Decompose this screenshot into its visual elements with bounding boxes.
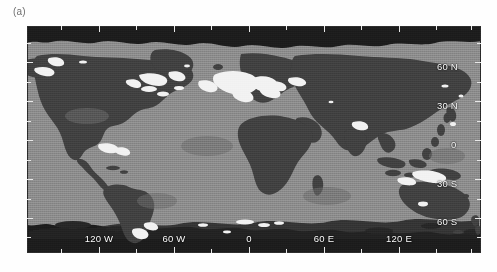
tick-right-major [475,62,481,63]
tick-top-major [399,26,400,32]
tick-left-major [27,62,33,63]
tick-bottom-major [174,247,175,253]
tick-left-major [27,101,33,102]
tick-bottom-minor [211,249,212,253]
tick-right-major [475,218,481,219]
tick-top-minor [436,26,437,30]
tick-left-minor [27,237,31,238]
tick-right-minor [477,160,481,161]
world-map: 60 N 30 N 0 30 S 60 S 120 W 60 W 0 60 E … [27,26,481,253]
tick-top-minor [211,26,212,30]
lat-label-60s: 60 S [437,217,457,227]
tick-right-minor [477,43,481,44]
tick-bottom-major [324,247,325,253]
tick-left-major [27,179,33,180]
tick-bottom-minor [361,249,362,253]
tick-right-major [475,140,481,141]
tick-right-minor [477,199,481,200]
tick-top-major [174,26,175,32]
world-map-graphic [27,26,481,253]
tick-bottom-minor [471,249,472,253]
lon-label-60e: 60 E [314,234,334,244]
lat-label-0: 0 [451,140,456,150]
tick-right-minor [477,237,481,238]
lon-label-60w: 60 W [163,234,186,244]
tick-top-major [249,26,250,32]
tick-bottom-minor [436,249,437,253]
tick-top-minor [61,26,62,30]
tick-top-minor [286,26,287,30]
lon-label-120w: 120 W [85,234,113,244]
lat-label-30n: 30 N [437,101,458,111]
tick-left-minor [27,160,31,161]
tick-left-major [27,218,33,219]
tick-right-minor [477,121,481,122]
tick-left-minor [27,43,31,44]
tick-right-major [475,179,481,180]
lat-label-60n: 60 N [437,62,458,72]
tick-bottom-major [399,247,400,253]
panel-label: (a) [13,6,26,18]
lon-label-120e: 120 E [386,234,412,244]
tick-left-minor [27,82,31,83]
tick-left-major [27,140,33,141]
tick-top-minor [471,26,472,30]
tick-bottom-major [99,247,100,253]
tick-right-minor [477,82,481,83]
tick-top-major [324,26,325,32]
lat-label-30s: 30 S [437,179,457,189]
tick-top-minor [361,26,362,30]
tick-bottom-minor [286,249,287,253]
tick-bottom-minor [61,249,62,253]
figure-root: (a) [0,0,497,272]
tick-left-minor [27,121,31,122]
tick-bottom-minor [136,249,137,253]
tick-top-minor [136,26,137,30]
tick-left-minor [27,199,31,200]
tick-top-major [99,26,100,32]
tick-bottom-major [249,247,250,253]
lon-label-0: 0 [246,234,251,244]
tick-right-major [475,101,481,102]
